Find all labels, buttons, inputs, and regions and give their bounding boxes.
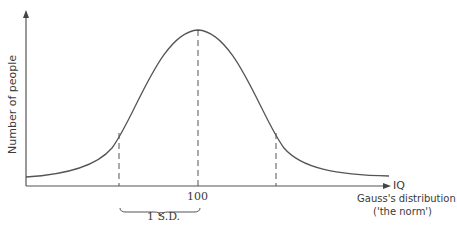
y-axis-label: Number of people	[6, 55, 19, 154]
x-tick-100: 100	[187, 190, 208, 203]
bell-curve	[26, 30, 389, 177]
caption-line-1: Gauss's distribution	[357, 193, 456, 204]
y-axis-arrow-icon	[23, 10, 29, 18]
x-axis-label: IQ	[393, 179, 405, 192]
sd-label: 1 S.D.	[147, 210, 180, 223]
caption-line-2: ('the norm')	[373, 206, 432, 217]
x-axis-arrow-icon	[383, 183, 391, 189]
